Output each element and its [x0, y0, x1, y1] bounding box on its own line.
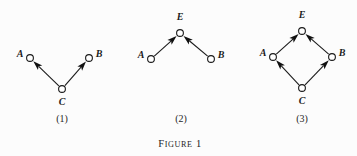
node-e[interactable]	[177, 30, 184, 37]
panel-2: EAB(2)	[137, 11, 225, 125]
node-label-e: E	[176, 11, 184, 22]
panel-number-label-3: (3)	[296, 113, 308, 125]
node-b[interactable]	[86, 55, 93, 62]
edge-B-to-E	[189, 41, 207, 56]
node-label-a: A	[16, 48, 24, 59]
node-b[interactable]	[208, 56, 215, 63]
node-a[interactable]	[148, 56, 155, 63]
edge-A-to-E	[276, 39, 293, 54]
node-label-b: B	[217, 49, 225, 60]
node-e[interactable]	[299, 28, 306, 35]
panel-3: EABC(3)	[259, 9, 346, 125]
node-a[interactable]	[27, 55, 34, 62]
edge-A-to-E	[154, 41, 171, 56]
figure-caption: FIGURE 1	[158, 138, 202, 149]
panel-number-label-1: (1)	[56, 113, 68, 125]
figure-container: ABC(1)EAB(2)EABC(3) FIGURE 1	[0, 0, 357, 156]
edge-C-to-A	[39, 66, 59, 86]
figure-caption-label: FIGURE 1	[158, 138, 202, 149]
node-label-a: A	[259, 47, 267, 58]
panel-1: ABC(1)	[16, 48, 103, 125]
node-label-b: B	[338, 47, 346, 58]
panels-layer: ABC(1)EAB(2)EABC(3)	[16, 9, 346, 125]
edge-B-to-E	[311, 39, 329, 54]
node-c[interactable]	[299, 85, 306, 92]
edge-C-to-B	[305, 66, 324, 85]
node-label-e: E	[298, 9, 306, 20]
edge-C-to-A	[281, 66, 299, 85]
figure-diagram-canvas: ABC(1)EAB(2)EABC(3) FIGURE 1	[0, 0, 357, 156]
node-b[interactable]	[329, 54, 336, 61]
node-label-c: C	[299, 95, 306, 106]
node-label-b: B	[95, 48, 103, 59]
edge-C-to-B	[65, 67, 81, 86]
node-label-a: A	[137, 49, 145, 60]
panel-number-label-2: (2)	[175, 113, 187, 125]
node-c[interactable]	[59, 86, 66, 93]
node-a[interactable]	[270, 54, 277, 61]
node-label-c: C	[59, 96, 66, 107]
